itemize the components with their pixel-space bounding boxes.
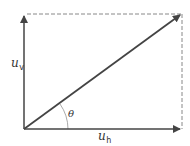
label-u-horizontal: uh	[98, 129, 111, 145]
label-u-vertical: uv	[11, 56, 24, 72]
label-theta: θ	[68, 108, 74, 119]
angle-arc	[60, 104, 68, 129]
resultant-vector-arrow	[24, 15, 180, 129]
vector-diagram: uv uh θ	[0, 0, 190, 146]
